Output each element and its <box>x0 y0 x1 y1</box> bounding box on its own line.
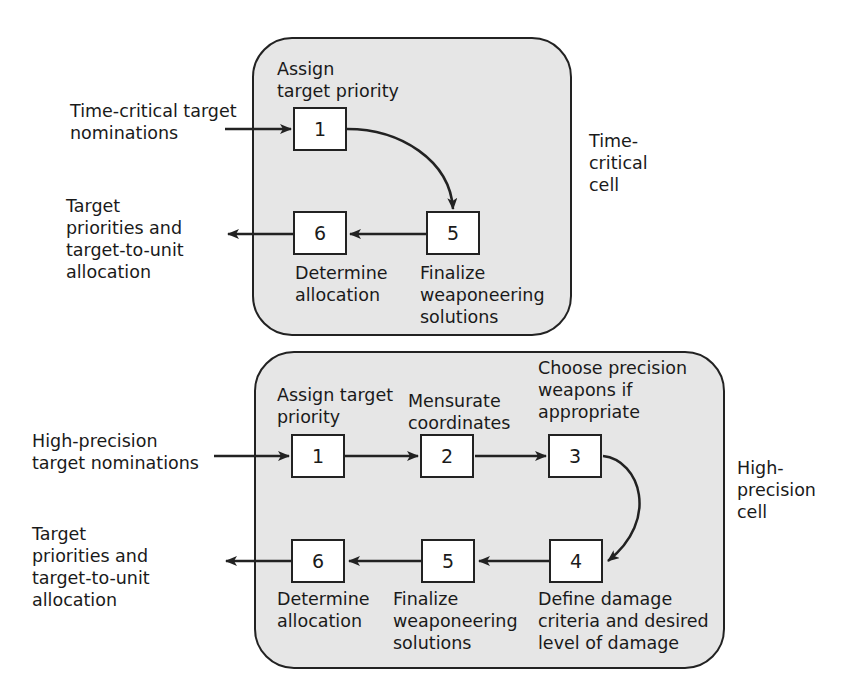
tc-step-5-label: Finalize weaponeering solutions <box>420 262 545 328</box>
tc-output-label: Target priorities and target-to-unit all… <box>66 195 184 283</box>
arrow-hp-3-to-4 <box>603 456 640 561</box>
hp-input-label: High-precision target nominations <box>32 430 199 474</box>
tc-step-1-label: Assign target priority <box>277 58 399 102</box>
tc-input-label: Time-critical target nominations <box>70 100 237 144</box>
tc-step-6-number: 6 <box>314 222 326 244</box>
hp-step-6-number: 6 <box>312 550 324 572</box>
hp-step-2-label: Mensurate coordinates <box>408 390 510 434</box>
tc-step-5-number: 5 <box>447 222 459 244</box>
hp-step-1-label: Assign target priority <box>277 384 393 428</box>
hp-step-3-box: 3 <box>548 434 602 478</box>
tc-cell-label: Time- critical cell <box>589 130 648 196</box>
hp-step-1-box: 1 <box>291 434 345 478</box>
hp-step-2-number: 2 <box>441 445 453 467</box>
hp-step-5-label: Finalize weaponeering solutions <box>393 588 518 654</box>
arrow-tc-1-to-5 <box>347 129 453 209</box>
hp-step-4-label: Define damage criteria and desired level… <box>538 588 709 654</box>
hp-step-3-number: 3 <box>569 445 581 467</box>
hp-step-4-number: 4 <box>570 550 582 572</box>
hp-step-6-label: Determine allocation <box>277 588 370 632</box>
tc-step-6-box: 6 <box>293 211 347 255</box>
hp-step-3-label: Choose precision weapons if appropriate <box>538 357 687 423</box>
hp-output-label: Target priorities and target-to-unit all… <box>32 523 150 611</box>
tc-step-1-number: 1 <box>314 118 326 140</box>
hp-step-5-number: 5 <box>442 550 454 572</box>
hp-step-4-box: 4 <box>549 539 603 583</box>
hp-step-5-box: 5 <box>421 539 475 583</box>
hp-cell-label: High- precision cell <box>737 457 816 523</box>
hp-step-1-number: 1 <box>312 445 324 467</box>
tc-step-1-box: 1 <box>293 107 347 151</box>
hp-step-2-box: 2 <box>420 434 474 478</box>
tc-step-5-box: 5 <box>426 211 480 255</box>
hp-step-6-box: 6 <box>291 539 345 583</box>
tc-step-6-label: Determine allocation <box>295 262 388 306</box>
